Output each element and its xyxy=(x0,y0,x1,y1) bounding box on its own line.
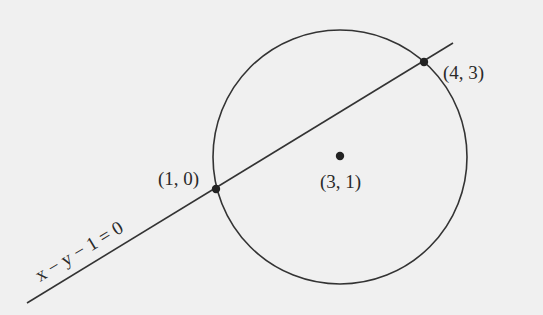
point-4-3 xyxy=(420,58,428,66)
center-point xyxy=(336,152,344,160)
line-x-minus-y-minus-1 xyxy=(27,43,453,303)
center-label: (3, 1) xyxy=(320,171,361,193)
point-label-1-0: (1, 0) xyxy=(158,168,199,190)
point-label-4-3: (4, 3) xyxy=(443,62,484,84)
point-1-0 xyxy=(212,185,220,193)
diagram-svg: (1, 0) (4, 3) (3, 1) x − y − 1 = 0 xyxy=(0,0,543,315)
diagram-canvas: (1, 0) (4, 3) (3, 1) x − y − 1 = 0 xyxy=(0,0,543,315)
